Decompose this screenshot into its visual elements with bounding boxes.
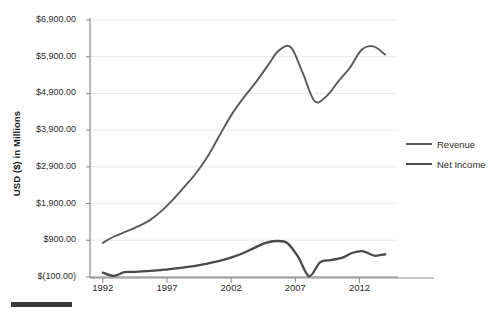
x-tick-label: 1997	[142, 282, 192, 293]
x-tick-label: 1992	[78, 282, 128, 293]
legend-swatch-net-income	[406, 163, 432, 165]
series-line-net-income	[103, 241, 385, 276]
bottom-marker-bar	[11, 302, 72, 307]
legend-item-revenue[interactable]: Revenue	[406, 136, 486, 152]
x-tick-label: 2002	[206, 282, 256, 293]
legend-item-net-income[interactable]: Net Income	[406, 156, 486, 172]
chart-legend: Revenue Net Income	[406, 136, 486, 176]
y-tick-label: $(100.00)	[14, 271, 76, 281]
series-line-revenue	[103, 46, 385, 243]
x-tick-label: 2012	[335, 282, 385, 293]
legend-label-revenue: Revenue	[437, 139, 475, 150]
y-tick-label: $1,900.00	[14, 198, 76, 208]
y-tick-label: $3,900.00	[14, 124, 76, 134]
y-tick-label: $5,900.00	[14, 51, 76, 61]
y-tick-label: $4,900.00	[14, 87, 76, 97]
y-tick-label: $6,900.00	[14, 14, 76, 24]
y-axis-title: USD ($) in Millions	[11, 94, 22, 214]
y-tick-label: $900.00	[14, 234, 76, 244]
y-tick-label: $2,900.00	[14, 161, 76, 171]
x-tick-label: 2007	[270, 282, 320, 293]
legend-swatch-revenue	[406, 143, 432, 145]
legend-label-net-income: Net Income	[437, 159, 486, 170]
chart-container: USD ($) in Millions $6,900.00$5,900.00$4…	[0, 0, 494, 313]
